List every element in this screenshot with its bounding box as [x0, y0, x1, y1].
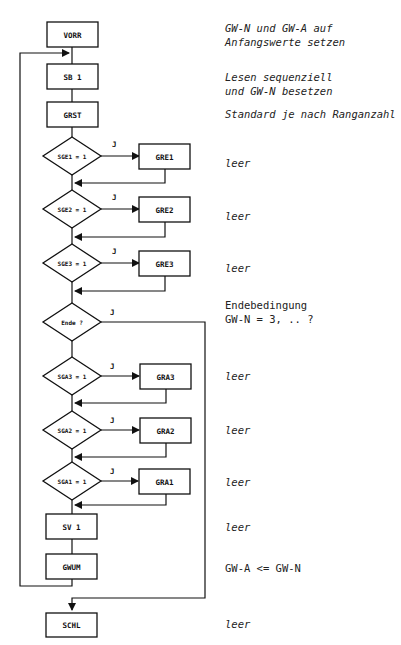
label-sv1: SV 1 — [62, 523, 81, 532]
yes-label-sga1: J — [110, 467, 115, 476]
yes-label-sga2: J — [110, 416, 115, 425]
label-gwum: GWUM — [62, 563, 81, 572]
label-gra2: GRA2 — [156, 427, 174, 436]
note-ende: Endebedingung GW-N = 3, .. ? — [225, 298, 314, 326]
note-gwum: GW-A <= GW-N — [225, 561, 301, 575]
label-vorr: VORR — [63, 31, 82, 40]
note-schl: leer — [225, 617, 250, 631]
flowchart-svg: VORR SB 1 GRST GRE1 GRE2 GRE3 GRA3 GRA2 … — [0, 0, 401, 645]
flowchart: VORR SB 1 GRST GRE1 GRE2 GRE3 GRA3 GRA2 … — [0, 0, 401, 645]
note-vorr: GW-N und GW-A auf Anfangswerte setzen — [225, 21, 345, 49]
note-sv1: leer — [225, 520, 250, 534]
yes-label-sge1: J — [112, 140, 117, 149]
label-gre3: GRE3 — [155, 260, 174, 269]
note-gra2: leer — [225, 423, 250, 437]
label-sga2: SGA2 = 1 — [58, 427, 87, 434]
label-gra1: GRA1 — [155, 478, 174, 487]
label-gra3: GRA3 — [156, 373, 175, 382]
note-gre3: leer — [225, 261, 250, 275]
yes-label-ende: J — [110, 308, 115, 317]
note-gre1: leer — [225, 156, 250, 170]
label-gre2: GRE2 — [155, 206, 173, 215]
label-sge1: SGE1 = 1 — [58, 153, 87, 160]
label-gre1: GRE1 — [155, 153, 174, 162]
label-sga1: SGA1 = 1 — [58, 478, 87, 485]
yes-label-sga3: J — [110, 362, 115, 371]
note-gre2: leer — [225, 209, 250, 223]
note-gra3: leer — [225, 369, 250, 383]
note-gra1: leer — [225, 475, 250, 489]
yes-label-sge3: J — [112, 247, 117, 256]
label-sge3: SGE3 = 1 — [58, 260, 87, 267]
yes-label-sge2: J — [112, 193, 117, 202]
note-sb1: Lesen sequenziell und GW-N besetzen — [225, 70, 332, 98]
label-sga3: SGA3 = 1 — [58, 373, 87, 380]
note-grst: Standard je nach Ranganzahl — [225, 107, 396, 121]
label-sb1: SB 1 — [63, 73, 82, 82]
label-sge2: SGE2 = 1 — [58, 206, 87, 213]
label-schl: SCHL — [62, 621, 81, 630]
label-grst: GRST — [63, 111, 82, 120]
label-ende: Ende ? — [61, 319, 83, 326]
